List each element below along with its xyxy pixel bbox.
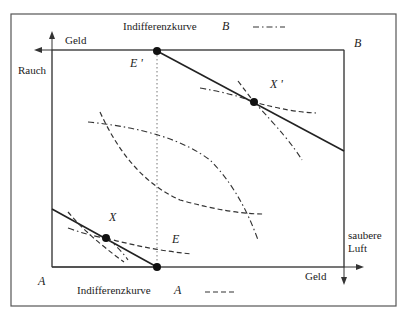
a-luft-label-1: saubere: [348, 230, 382, 241]
point-e: [153, 263, 161, 271]
point-e-label: E: [172, 233, 179, 245]
point-e-prime: [153, 47, 161, 55]
legend-b-label: Indifferenzkurve: [123, 21, 197, 32]
origin-a-label: A: [38, 275, 45, 287]
point-x: [102, 234, 110, 242]
edgeworth-box-diagram: [0, 0, 407, 316]
a-luft-label-2: Luft: [348, 243, 367, 254]
edgeworth-box: [52, 50, 344, 267]
legend-a-agent: A: [174, 284, 181, 296]
legend-a-label: Indifferenzkurve: [77, 285, 151, 296]
b-geld-label: Geld: [65, 35, 86, 46]
arrow-right-icon: [356, 264, 364, 270]
point-e-prime-label: E ': [130, 57, 143, 69]
arrow-down-icon: [341, 277, 347, 285]
arrow-up-icon: [49, 31, 55, 39]
point-x-prime: [250, 98, 258, 106]
a-geld-label: Geld: [305, 271, 326, 282]
indifference-curve-b-x: [68, 228, 128, 260]
outer-frame: [11, 14, 396, 306]
indifference-curve-b-xprime: [200, 88, 302, 160]
point-x-label: X: [109, 211, 116, 223]
point-x-prime-label: X ': [270, 78, 283, 90]
arrow-left-icon: [34, 47, 42, 53]
legend-b-agent: B: [222, 20, 229, 32]
b-rauch-label: Rauch: [18, 65, 46, 76]
origin-b-label: B: [354, 37, 361, 49]
